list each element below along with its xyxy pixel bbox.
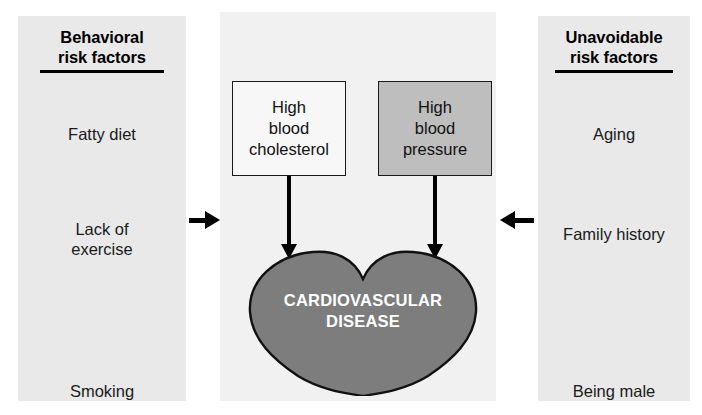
factor-lack-of-exercise-label-line1: Lack of	[18, 219, 186, 239]
factor-being-male-label: Being male	[538, 381, 690, 401]
arrow-head	[205, 211, 220, 229]
factor-lack-of-exercise-label-line2: exercise	[18, 239, 186, 259]
box-high-blood-pressure-line3: pressure	[403, 139, 467, 160]
factor-smoking: Smoking	[18, 381, 186, 401]
unavoidable-header-rule	[555, 70, 673, 73]
arrow-shaft	[433, 176, 437, 246]
factor-lack-of-exercise: Lack of exercise	[18, 219, 186, 259]
behavioral-header-line1: Behavioral	[18, 28, 186, 48]
box-high-blood-cholesterol-line2: blood	[249, 118, 329, 139]
factor-fatty-diet: Fatty diet	[18, 124, 186, 144]
behavioral-risk-factors-header: Behavioral risk factors	[18, 28, 186, 73]
arrow-shaft	[515, 218, 534, 223]
unavoidable-risk-factors-panel: Unavoidable risk factors Aging Family hi…	[538, 16, 690, 401]
factor-smoking-label: Smoking	[18, 381, 186, 401]
box-high-blood-cholesterol-line3: cholesterol	[249, 139, 329, 160]
diagram-canvas: Behavioral risk factors Fatty diet Lack …	[0, 0, 702, 415]
arrow-right-icon-behavioral-to-center	[189, 211, 219, 229]
arrow-left-icon-unavoidable-to-center	[500, 211, 534, 229]
box-high-blood-pressure-line1: High	[403, 97, 467, 118]
factor-aging-label: Aging	[538, 124, 690, 144]
unavoidable-header-line1: Unavoidable	[538, 28, 690, 48]
behavioral-risk-factors-panel: Behavioral risk factors Fatty diet Lack …	[18, 16, 186, 401]
behavioral-header-rule	[40, 70, 164, 73]
factor-family-history: Family history	[538, 224, 690, 244]
factor-aging: Aging	[538, 124, 690, 144]
box-high-blood-cholesterol: High blood cholesterol	[232, 81, 346, 176]
box-high-blood-pressure-line2: blood	[403, 118, 467, 139]
factor-fatty-diet-label: Fatty diet	[18, 124, 186, 144]
behavioral-header-line2: risk factors	[18, 48, 186, 68]
cardiovascular-disease-heart: CARDIOVASCULAR DISEASE	[246, 250, 480, 396]
box-high-blood-cholesterol-line1: High	[249, 97, 329, 118]
unavoidable-risk-factors-header: Unavoidable risk factors	[538, 28, 690, 73]
arrow-head	[500, 211, 515, 229]
unavoidable-header-line2: risk factors	[538, 48, 690, 68]
factor-family-history-label: Family history	[538, 224, 690, 244]
arrow-shaft	[287, 176, 291, 246]
factor-being-male: Being male	[538, 381, 690, 401]
box-high-blood-pressure: High blood pressure	[378, 81, 492, 176]
